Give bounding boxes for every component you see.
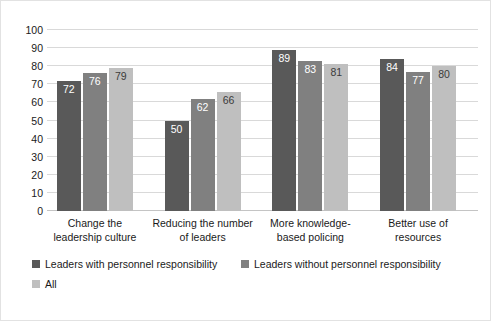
category-label-line: Change the [35, 217, 155, 231]
bar[interactable]: 66 [217, 92, 241, 211]
y-axis-tick-label: 40 [31, 133, 43, 144]
bar[interactable]: 79 [109, 68, 133, 211]
y-axis-tick-label: 90 [31, 43, 43, 54]
bar-value-label: 81 [324, 67, 348, 78]
chart-legend: Leaders with personnel responsibilityLea… [32, 257, 472, 297]
legend-label: Leaders with personnel responsibility [45, 259, 217, 270]
legend-row: Leaders with personnel responsibilityLea… [32, 257, 472, 277]
category-label-line: Reducing the number [143, 217, 263, 231]
legend-row: All [32, 277, 472, 297]
bar[interactable]: 62 [191, 99, 215, 211]
x-axis-category-label: Reducing the numberof leaders [143, 217, 263, 244]
plot-area: 727679506266898381847780 [47, 30, 478, 211]
category-label-line: Better use of [358, 217, 478, 231]
bar-group: 898381 [272, 30, 348, 211]
bar-value-label: 89 [272, 53, 296, 64]
bar-group: 847780 [380, 30, 456, 211]
legend-item[interactable]: All [32, 277, 57, 291]
bar-group: 506266 [165, 30, 241, 211]
y-axis: 1009080706050403020100 [9, 30, 43, 211]
y-axis-tick-label: 70 [31, 79, 43, 90]
bar[interactable]: 76 [83, 73, 107, 211]
bar-value-label: 76 [83, 76, 107, 87]
bar-value-label: 66 [217, 95, 241, 106]
legend-swatch-icon [241, 260, 249, 268]
legend-label: Leaders without personnel responsibility [254, 259, 441, 270]
bar[interactable]: 83 [298, 61, 322, 211]
bar-value-label: 83 [298, 64, 322, 75]
bar[interactable]: 50 [165, 121, 189, 212]
category-label-line: based policing [250, 231, 370, 245]
legend-swatch-icon [32, 280, 40, 288]
x-axis-category-label: Change theleadership culture [35, 217, 155, 244]
bar[interactable]: 81 [324, 64, 348, 211]
y-axis-tick-label: 10 [31, 188, 43, 199]
legend-item[interactable]: Leaders without personnel responsibility [241, 257, 441, 271]
legend-item[interactable]: Leaders with personnel responsibility [32, 257, 217, 271]
legend-label: All [45, 279, 57, 290]
category-label-line: of leaders [143, 231, 263, 245]
legend-swatch-icon [32, 260, 40, 268]
bar-value-label: 62 [191, 102, 215, 113]
x-axis-category-label: More knowledge-based policing [250, 217, 370, 244]
x-axis-category-labels: Change theleadership cultureReducing the… [47, 217, 478, 251]
bar[interactable]: 89 [272, 50, 296, 211]
bar-group: 727679 [57, 30, 133, 211]
bar[interactable]: 77 [406, 72, 430, 211]
bar-groups: 727679506266898381847780 [47, 30, 478, 211]
y-axis-tick-label: 50 [31, 115, 43, 126]
bar-value-label: 77 [406, 75, 430, 86]
category-label-line: leadership culture [35, 231, 155, 245]
category-label-line: resources [358, 231, 478, 245]
bar-value-label: 50 [165, 124, 189, 135]
y-axis-tick-label: 20 [31, 170, 43, 181]
y-axis-tick-label: 30 [31, 151, 43, 162]
bar[interactable]: 80 [432, 66, 456, 211]
bar-value-label: 72 [57, 84, 81, 95]
y-axis-tick-label: 100 [25, 25, 43, 36]
bar-value-label: 79 [109, 71, 133, 82]
x-axis-category-label: Better use ofresources [358, 217, 478, 244]
bar-value-label: 80 [432, 69, 456, 80]
category-label-line: More knowledge- [250, 217, 370, 231]
y-axis-tick-label: 0 [37, 206, 43, 217]
bar[interactable]: 84 [380, 59, 404, 211]
y-axis-tick-label: 60 [31, 97, 43, 108]
bar-chart-figure: 1009080706050403020100 72767950626689838… [0, 0, 491, 321]
bar[interactable]: 72 [57, 81, 81, 211]
bar-value-label: 84 [380, 62, 404, 73]
y-axis-tick-label: 80 [31, 61, 43, 72]
